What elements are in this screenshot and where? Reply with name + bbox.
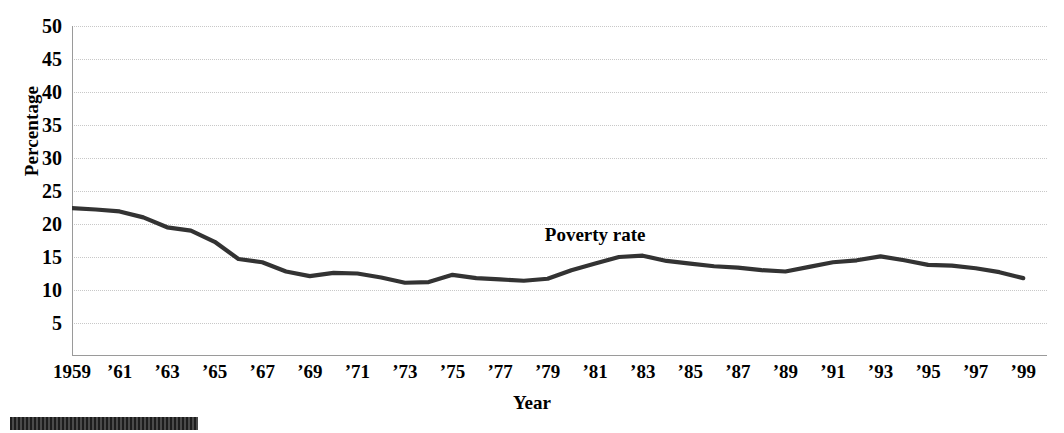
plot-area [72, 26, 1047, 356]
x-axis-title: Year [0, 392, 1064, 414]
y-tick-label-30: 30 [20, 148, 62, 168]
y-tick-label-35: 35 [20, 115, 62, 135]
x-tick-label-1995: ’95 [915, 362, 940, 381]
x-axis-tick-labels: 1959’61’63’65’67’69’71’73’75’77’79’81’83… [0, 362, 1064, 392]
y-tick-label-50: 50 [20, 16, 62, 36]
y-tick-label-5: 5 [20, 313, 62, 333]
x-tick-label-1969: ’69 [297, 362, 322, 381]
x-tick-label-1993: ’93 [868, 362, 893, 381]
gridlines [72, 26, 1047, 323]
x-tick-label-1991: ’91 [820, 362, 845, 381]
x-tick-label-1983: ’83 [630, 362, 655, 381]
y-tick-label-15: 15 [20, 247, 62, 267]
x-tick-label-1973: ’73 [392, 362, 417, 381]
x-tick-label-1967: ’67 [250, 362, 275, 381]
x-tick-label-1961: ’61 [107, 362, 132, 381]
x-tick-label-1959: 1959 [53, 362, 91, 381]
y-tick-label-40: 40 [20, 82, 62, 102]
x-tick-label-1965: ’65 [202, 362, 227, 381]
y-tick-label-45: 45 [20, 49, 62, 69]
series-annotation-poverty-rate: Poverty rate [545, 224, 646, 246]
footer-decoration-bar [10, 417, 198, 430]
x-tick-label-1975: ’75 [440, 362, 465, 381]
x-tick-label-1987: ’87 [725, 362, 750, 381]
x-tick-label-1963: ’63 [154, 362, 179, 381]
x-tick-label-1979: ’79 [535, 362, 560, 381]
x-tick-label-1989: ’89 [773, 362, 798, 381]
y-tick-label-20: 20 [20, 214, 62, 234]
y-axis-tick-labels: 5101520253035404550 [12, 0, 62, 360]
x-tick-label-1981: ’81 [582, 362, 607, 381]
x-tick-label-1985: ’85 [678, 362, 703, 381]
x-tick-label-1971: ’71 [345, 362, 370, 381]
y-tick-label-10: 10 [20, 280, 62, 300]
poverty-rate-line-chart: Percentage 5101520253035404550 Poverty r… [0, 0, 1064, 433]
y-tick-label-25: 25 [20, 181, 62, 201]
plot-svg [72, 26, 1047, 356]
x-tick-label-1977: ’77 [487, 362, 512, 381]
x-tick-label-1997: ’97 [963, 362, 988, 381]
x-tick-label-1999: ’99 [1011, 362, 1036, 381]
